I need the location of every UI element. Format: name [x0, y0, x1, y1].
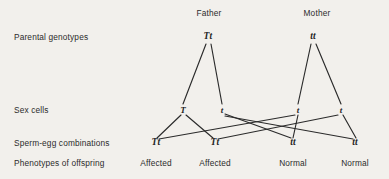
fathert-to-combo3 — [225, 114, 291, 138]
mothert-right-to-combo2 — [218, 115, 338, 139]
sex-cell-father-T: T — [180, 106, 186, 115]
phenotype-4: Normal — [341, 159, 369, 167]
row-label-parental-genotypes: Parental genotypes — [14, 33, 88, 41]
mother-tt-to-t-left — [298, 44, 311, 104]
mothert-right-to-combo4 — [343, 115, 356, 138]
inheritance-diagram: Father Mother Parental genotypes Sex cel… — [0, 0, 389, 179]
sex-cell-mother-t-right: t — [340, 106, 343, 115]
father-Tt-to-t — [211, 44, 222, 104]
fatherT-to-combo2 — [186, 115, 213, 138]
fatherT-to-combo1 — [157, 115, 181, 138]
row-label-sperm-egg-combinations: Sperm-egg combinations — [14, 139, 110, 147]
mothert-left-to-combo1 — [159, 115, 295, 139]
father-Tt-to-T — [183, 44, 206, 104]
phenotype-3: Normal — [279, 159, 307, 167]
sex-cell-mother-t-left: t — [297, 106, 300, 115]
mother-tt-to-t-right — [316, 44, 341, 104]
row-label-phenotypes-of-offspring: Phenotypes of offspring — [14, 159, 104, 167]
parent-genotype-mother: tt — [310, 32, 316, 42]
phenotype-1: Affected — [140, 159, 172, 167]
sex-cell-father-t: t — [221, 106, 224, 115]
column-header-mother: Mother — [303, 9, 330, 17]
mothert-left-to-combo3 — [293, 115, 298, 138]
row-label-sex-cells: Sex cells — [14, 106, 49, 114]
combination-4: tt — [352, 138, 358, 148]
parent-genotype-father: Tt — [204, 32, 213, 42]
phenotype-2: Affected — [199, 159, 231, 167]
combination-1: Tt — [152, 138, 161, 148]
column-header-father: Father — [196, 9, 221, 17]
fathert-to-combo4 — [225, 116, 353, 139]
combination-3: tt — [290, 138, 296, 148]
combination-2: Tt — [211, 138, 220, 148]
connector-lines-layer — [0, 0, 389, 179]
